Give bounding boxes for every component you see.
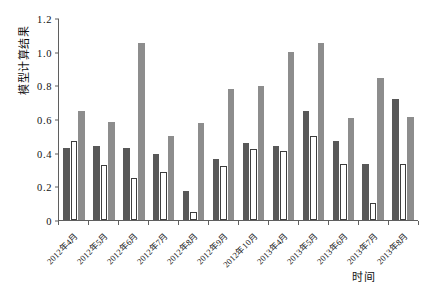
bar: [123, 148, 130, 220]
x-axis-tick-mark: [388, 221, 418, 225]
x-axis-tick-mark: [148, 221, 178, 225]
y-axis-tick-label: 0: [46, 216, 55, 227]
x-axis-tick-mark: [88, 221, 118, 225]
y-axis-tick-label: 0.2: [37, 182, 55, 193]
y-axis-tick: 0.6: [37, 115, 59, 126]
x-axis-tick-mark: [178, 221, 208, 225]
y-axis-tick-label: 0.4: [37, 148, 55, 159]
y-axis-tick: 0.4: [37, 148, 59, 159]
x-axis-tick-mark: [118, 221, 148, 225]
x-axis-tick-label: 2012年4月: [43, 229, 80, 266]
bar-group: [179, 19, 209, 220]
bar: [93, 146, 100, 220]
x-axis-ticks: [58, 221, 418, 225]
bar-group: [298, 19, 328, 220]
bar: [340, 164, 347, 220]
x-axis-tick-mark: [208, 221, 238, 225]
bar: [310, 136, 317, 220]
plot-area: 00.20.40.60.81.01.2: [58, 19, 418, 221]
bar: [348, 118, 355, 220]
bar-chart: 模型计算结果 00.20.40.60.81.01.2 2012年4月2012年5…: [0, 0, 428, 293]
bar: [273, 146, 280, 220]
y-axis-tick-label: 1.0: [37, 47, 55, 58]
x-axis-title: 时间: [352, 268, 375, 284]
bar-group: [358, 19, 388, 220]
bar: [280, 151, 287, 220]
bar: [377, 78, 384, 220]
bar: [288, 52, 295, 220]
bar-group: [89, 19, 119, 220]
bar: [63, 148, 70, 220]
bar: [370, 203, 377, 220]
y-axis-tick-label: 0.8: [37, 81, 55, 92]
y-axis-tick: 1.2: [37, 14, 59, 25]
bar-group: [328, 19, 358, 220]
bar: [362, 164, 369, 220]
bar-group: [388, 19, 418, 220]
bar: [228, 89, 235, 220]
bar: [303, 111, 310, 220]
bar: [183, 191, 190, 220]
bar: [78, 111, 85, 220]
x-axis-tick-mark: [358, 221, 388, 225]
y-axis-tick-label: 0.6: [37, 115, 55, 126]
bar: [400, 164, 407, 220]
x-axis-tick-mark: [268, 221, 298, 225]
bar: [318, 43, 325, 220]
bar: [160, 172, 167, 220]
bar: [333, 141, 340, 220]
bar-group: [268, 19, 298, 220]
bar-group: [239, 19, 269, 220]
bar: [220, 166, 227, 220]
y-axis-tick: 1.0: [37, 47, 59, 58]
x-axis-tick-mark: [328, 221, 358, 225]
bar: [407, 117, 414, 220]
bar: [101, 165, 108, 220]
bar: [108, 122, 115, 220]
y-axis-title: 模型计算结果: [15, 0, 31, 125]
bar: [168, 136, 175, 220]
bar: [243, 143, 250, 220]
bar: [250, 149, 257, 220]
bar-group: [119, 19, 149, 220]
bar: [71, 141, 78, 220]
bar: [153, 154, 160, 220]
y-axis-tick: 0.2: [37, 182, 59, 193]
y-axis-tick-label: 1.2: [37, 14, 55, 25]
bar-group: [209, 19, 239, 220]
bar: [138, 43, 145, 220]
bar-group: [149, 19, 179, 220]
x-axis-label-cell: 2013年8月: [388, 226, 418, 282]
y-axis-tick: 0.8: [37, 81, 59, 92]
bar: [131, 178, 138, 220]
bar-groups: [59, 19, 418, 220]
bar: [392, 99, 399, 220]
bar: [258, 86, 265, 220]
bar: [198, 123, 205, 220]
bar: [190, 212, 197, 220]
bar: [213, 159, 220, 220]
x-axis-tick-mark: [238, 221, 268, 225]
x-axis-tick-mark: [58, 221, 88, 225]
x-axis-tick-mark: [298, 221, 328, 225]
bar-group: [59, 19, 89, 220]
